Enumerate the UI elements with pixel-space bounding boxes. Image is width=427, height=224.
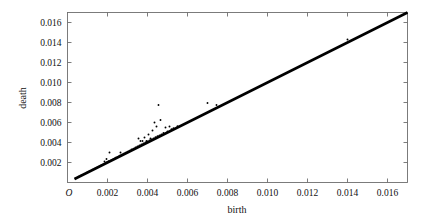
x-axis-tick-labels: 0.0020.0040.0060.0080.0100.0120.0140.016 — [97, 188, 399, 198]
x-tick-label: 0.004 — [137, 188, 159, 198]
scatter-plot-figure: 0.0020.0040.0060.0080.0100.0120.0140.016… — [0, 0, 427, 224]
x-axis-ticks — [108, 13, 388, 183]
data-point — [216, 104, 218, 106]
data-point — [173, 127, 175, 129]
data-point — [84, 173, 86, 175]
y-tick-label: 0.014 — [40, 38, 62, 48]
data-point — [160, 119, 162, 121]
data-point — [163, 132, 165, 134]
data-point — [129, 150, 131, 152]
data-point — [125, 152, 127, 154]
y-axis-tick-labels: 0.0020.0040.0060.0080.0100.0120.0140.016 — [40, 18, 62, 168]
x-tick-label: 0.006 — [177, 188, 199, 198]
data-point — [155, 136, 157, 138]
data-point — [139, 145, 141, 147]
data-point — [103, 163, 105, 165]
data-point — [95, 167, 97, 169]
data-point — [151, 139, 153, 141]
data-point — [138, 138, 140, 140]
y-tick-label: 0.010 — [40, 78, 62, 88]
data-point — [115, 157, 117, 159]
data-point — [147, 141, 149, 143]
data-points — [75, 39, 349, 180]
data-point — [149, 140, 151, 142]
data-point — [109, 152, 111, 154]
data-point — [153, 138, 155, 140]
data-point — [119, 155, 121, 157]
data-point — [157, 135, 159, 137]
data-point — [111, 159, 113, 161]
data-point — [133, 148, 135, 150]
data-point — [152, 130, 154, 132]
data-point — [177, 125, 179, 127]
data-point — [81, 174, 83, 176]
y-tick-label: 0.006 — [40, 118, 62, 128]
data-point — [89, 170, 91, 172]
data-point — [158, 104, 160, 106]
y-axis-ticks — [68, 23, 408, 163]
data-point — [75, 178, 77, 180]
x-tick-label: 0.012 — [297, 188, 319, 198]
data-point — [113, 158, 115, 160]
y-tick-label: 0.004 — [40, 138, 62, 148]
data-point — [161, 134, 163, 136]
data-point — [154, 122, 156, 124]
plot-canvas: 0.0020.0040.0060.0080.0100.0120.0140.016… — [0, 0, 427, 224]
x-tick-label: 0.002 — [97, 188, 119, 198]
data-point — [156, 126, 158, 128]
data-point — [123, 153, 125, 155]
x-tick-label: 0.008 — [217, 188, 239, 198]
data-point — [144, 137, 146, 139]
y-tick-label: 0.012 — [40, 58, 62, 68]
data-point — [108, 160, 110, 162]
data-point — [143, 143, 145, 145]
x-tick-label: 0.014 — [337, 188, 359, 198]
data-point — [101, 164, 103, 166]
y-axis-title: death — [17, 87, 28, 109]
data-point — [120, 152, 122, 154]
data-point — [92, 169, 94, 171]
data-point — [87, 171, 89, 173]
data-point — [141, 144, 143, 146]
data-point — [167, 131, 169, 133]
x-axis-title: birth — [228, 204, 247, 215]
data-point — [131, 149, 133, 151]
y-tick-label: 0.008 — [40, 98, 62, 108]
data-point — [159, 135, 161, 137]
data-point — [169, 126, 171, 128]
x-tick-label: 0.016 — [377, 188, 399, 198]
data-point — [148, 134, 150, 136]
data-point — [140, 140, 142, 142]
data-point — [171, 128, 173, 130]
data-point — [137, 146, 139, 148]
data-point — [121, 154, 123, 156]
data-point — [106, 158, 108, 160]
data-point — [97, 166, 99, 168]
data-point — [142, 140, 144, 142]
data-point — [78, 176, 80, 178]
data-point — [99, 165, 101, 167]
data-point — [135, 147, 137, 149]
origin-label: O — [66, 188, 73, 198]
data-point — [207, 102, 209, 104]
x-tick-label: 0.010 — [257, 188, 279, 198]
data-point — [117, 156, 119, 158]
data-point — [165, 127, 167, 129]
data-point — [347, 39, 349, 41]
regression-line — [75, 13, 408, 180]
data-point — [127, 151, 129, 153]
y-tick-label: 0.016 — [40, 18, 62, 28]
y-tick-label: 0.002 — [40, 158, 62, 168]
fit-line — [75, 13, 408, 180]
